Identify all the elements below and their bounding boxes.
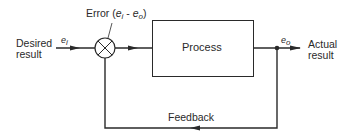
error-paren-close: ): [143, 7, 147, 19]
input-label: Desired result: [16, 38, 52, 60]
error-e1: e: [116, 7, 122, 19]
error-text: Error: [86, 7, 109, 19]
error-minus: -: [123, 7, 132, 19]
output-signal-subscript: o: [286, 38, 290, 47]
error-leader-line: [108, 23, 112, 38]
error-label: Error (ei - eo): [86, 8, 147, 20]
summing-junction-icon: [95, 38, 115, 58]
error-sub2: o: [139, 12, 143, 21]
input-label-line2: result: [16, 49, 52, 60]
input-arrow: [56, 46, 95, 51]
error-e2: e: [133, 7, 139, 19]
output-label-line2: result: [308, 50, 337, 61]
input-signal-label: ei: [61, 35, 68, 46]
feedback-label: Feedback: [168, 112, 214, 123]
input-signal-subscript: i: [66, 38, 68, 47]
output-label: Actual result: [308, 39, 337, 61]
output-signal-label: eo: [281, 35, 290, 46]
process-label: Process: [182, 42, 222, 53]
error-arrow: [115, 46, 152, 51]
